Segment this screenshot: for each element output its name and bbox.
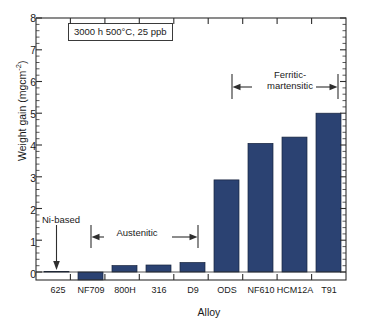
bar-D9 [180, 263, 205, 273]
bar-series [44, 113, 341, 280]
ni-based-arrow [53, 225, 60, 270]
ferritic-martensitic-bracket [232, 74, 338, 99]
weight-gain-bar-chart: Weight gain (mgcm-2) Alloy 8 7 6 5 4 3 2… [0, 0, 382, 327]
bar-NF610 [248, 143, 273, 272]
bar-800H [112, 266, 137, 272]
plot-canvas [0, 0, 382, 327]
bar-NF709 [78, 272, 103, 280]
bar-HCM12A [282, 137, 307, 272]
bar-T91 [316, 113, 341, 272]
bar-ODS [214, 180, 239, 272]
austenitic-bracket [91, 225, 198, 248]
x-ticks [70, 18, 311, 280]
bar-316 [146, 265, 171, 272]
